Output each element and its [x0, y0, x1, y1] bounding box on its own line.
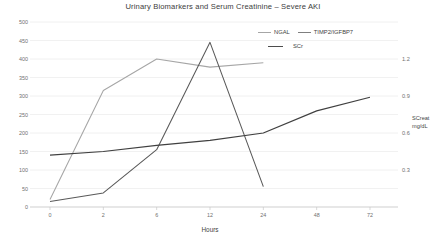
legend-row: SCr — [252, 40, 404, 52]
legend-item-ngal[interactable]: NGAL — [258, 29, 290, 35]
secondary-axis-title: SCreat mg/dL — [412, 115, 446, 130]
legend-label-scr: SCr — [293, 43, 303, 49]
y-axis-left-tick-label: 450 — [4, 38, 28, 44]
y-axis-left-tick-label: 0 — [4, 204, 28, 210]
legend-item-timp2[interactable]: TIMP2/IGFBP7 — [298, 29, 353, 35]
x-axis-title: Hours — [0, 226, 420, 233]
y-axis-left-tick-label: 400 — [4, 56, 28, 62]
y-axis-right-tick-label: 0.9 — [402, 93, 424, 99]
series-line-scr — [50, 97, 370, 155]
y-axis-left-tick-label: 100 — [4, 167, 28, 173]
legend-row: NGAL TIMP2/IGFBP7 — [252, 26, 404, 38]
x-axis-tick-label: 0 — [49, 212, 52, 218]
series-lines — [50, 42, 370, 201]
line-swatch-timp2-icon — [298, 32, 311, 33]
series-line-timp2-igfbp7 — [50, 42, 263, 201]
y-axis-right-tick-label: 0.3 — [402, 167, 424, 173]
line-swatch-scr-icon — [268, 46, 283, 47]
legend-item-scr[interactable]: SCr — [268, 43, 303, 49]
chart-container: Urinary Biomarkers and Serum Creatinine … — [0, 0, 446, 242]
x-axis-tick-label: 2 — [102, 212, 105, 218]
y-axis-left-tick-label: 500 — [4, 19, 28, 25]
secondary-axis-title-line1: SCreat — [412, 115, 446, 123]
y-axis-left-tick-label: 300 — [4, 93, 28, 99]
x-tick-marks — [50, 207, 370, 210]
x-axis-tick-label: 24 — [260, 212, 266, 218]
chart-legend: NGAL TIMP2/IGFBP7 SCr — [252, 26, 404, 52]
legend-label-ngal: NGAL — [274, 29, 290, 35]
legend-label-timp2: TIMP2/IGFBP7 — [314, 29, 353, 35]
y-axis-left-tick-label: 150 — [4, 149, 28, 155]
y-axis-right-tick-label: 0.6 — [402, 130, 424, 136]
x-axis-tick-label: 6 — [155, 212, 158, 218]
line-swatch-ngal-icon — [258, 32, 271, 33]
x-axis-tick-label: 72 — [367, 212, 373, 218]
y-axis-left-tick-label: 250 — [4, 112, 28, 118]
x-axis-tick-label: 12 — [207, 212, 213, 218]
y-axis-left-labels: 050100150200250300350400450500 — [2, 0, 28, 242]
x-axis-tick-label: 48 — [314, 212, 320, 218]
y-axis-left-tick-label: 350 — [4, 75, 28, 81]
y-axis-right-tick-label: 1.2 — [402, 56, 424, 62]
y-axis-left-tick-label: 200 — [4, 130, 28, 136]
y-axis-left-tick-label: 50 — [4, 186, 28, 192]
secondary-axis-title-line2: mg/dL — [412, 123, 446, 131]
series-line-ngal — [50, 59, 263, 200]
